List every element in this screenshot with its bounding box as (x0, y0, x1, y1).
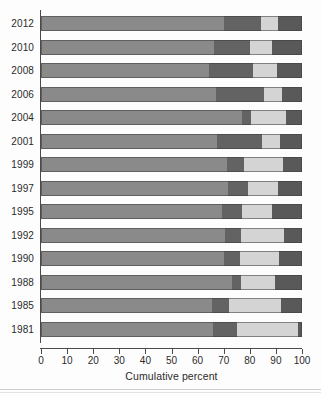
y-axis-tick-label: 1988 (11, 275, 34, 290)
x-axis-tick-mark (41, 349, 42, 354)
bar-segment-segment-4 (284, 228, 302, 243)
x-axis-ticks: 0102030405060708090100 (41, 349, 302, 371)
x-axis-tick-label: 100 (294, 355, 311, 366)
x-axis-tick-mark (276, 349, 277, 354)
bar-segment-segment-3 (229, 298, 281, 313)
x-axis-tick-label: 30 (114, 355, 125, 366)
bar-segment-segment-3 (261, 16, 278, 31)
x-axis-tick-label: 50 (166, 355, 177, 366)
y-axis-tick-label: 1985 (11, 298, 34, 313)
plot-area (41, 12, 302, 341)
bar-segment-segment-2 (227, 157, 244, 172)
bar-row (41, 322, 302, 337)
bar-segment-segment-1 (41, 40, 214, 55)
bar-segment-segment-1 (41, 134, 217, 149)
y-axis-tick-label: 2001 (11, 134, 34, 149)
x-axis-tick-label: 10 (62, 355, 73, 366)
bar-row (41, 157, 302, 172)
bar-row (41, 204, 302, 219)
bar-segment-segment-1 (41, 157, 227, 172)
y-axis-tick-label: 1981 (11, 322, 34, 337)
bar-track (41, 134, 302, 149)
bar-segment-segment-4 (280, 134, 302, 149)
x-axis-tick-mark (67, 349, 68, 354)
x-axis-tick-label: 0 (38, 355, 44, 366)
bar-row (41, 275, 302, 290)
bar-segment-segment-3 (250, 40, 272, 55)
x-axis-tick-mark (119, 349, 120, 354)
bar-segment-segment-1 (41, 63, 209, 78)
x-axis-tick-mark (145, 349, 146, 354)
bar-segment-segment-3 (248, 181, 277, 196)
x-axis-tick-mark (224, 349, 225, 354)
bar-track (41, 181, 302, 196)
bar-segment-segment-3 (264, 87, 283, 102)
bar-row (41, 87, 302, 102)
bar-segment-segment-3 (262, 134, 281, 149)
cumulative-percent-chart: 2012201020082006200420011999199719951992… (0, 0, 321, 397)
bar-segment-segment-3 (251, 110, 286, 125)
bar-segment-segment-1 (41, 251, 224, 266)
bar-track (41, 16, 302, 31)
x-axis-tick-label: 70 (218, 355, 229, 366)
bar-segment-segment-4 (277, 63, 302, 78)
page-rule-secondary (0, 392, 321, 393)
bar-segment-segment-3 (241, 275, 275, 290)
bar-track (41, 87, 302, 102)
bar-segment-segment-3 (241, 228, 285, 243)
x-axis-tick-label: 20 (88, 355, 99, 366)
bar-segment-segment-1 (41, 228, 225, 243)
bar-track (41, 275, 302, 290)
bar-segment-segment-2 (225, 228, 240, 243)
bar-segment-segment-1 (41, 275, 232, 290)
bar-segment-segment-2 (222, 204, 242, 219)
bar-row (41, 251, 302, 266)
bar-segment-segment-4 (278, 16, 302, 31)
bar-segment-segment-1 (41, 181, 228, 196)
x-axis-tick-mark (198, 349, 199, 354)
y-axis-tick-label: 1990 (11, 251, 34, 266)
bar-segment-segment-1 (41, 322, 213, 337)
bar-segment-segment-4 (272, 204, 302, 219)
bar-track (41, 63, 302, 78)
bar-segment-segment-4 (282, 87, 302, 102)
bar-row (41, 110, 302, 125)
bar-row (41, 63, 302, 78)
bar-segment-segment-4 (283, 157, 302, 172)
y-axis-tick-label: 1992 (11, 228, 34, 243)
bar-segment-segment-3 (242, 204, 272, 219)
x-axis-tick-label: 40 (140, 355, 151, 366)
bar-segment-segment-4 (286, 110, 302, 125)
bar-row (41, 134, 302, 149)
bar-segment-segment-2 (216, 87, 264, 102)
x-axis-tick-mark (93, 349, 94, 354)
y-axis-tick-label: 2010 (11, 40, 34, 55)
y-axis-tick-label: 1997 (11, 181, 34, 196)
y-axis-tick-label: 2006 (11, 87, 34, 102)
bar-segment-segment-3 (240, 251, 278, 266)
x-axis-tick-mark (172, 349, 173, 354)
bar-row (41, 16, 302, 31)
y-axis-tick-label: 2008 (11, 63, 34, 78)
bar-segment-segment-4 (275, 275, 302, 290)
bar-segment-segment-3 (237, 322, 298, 337)
bar-track (41, 322, 302, 337)
bar-rows (41, 12, 302, 341)
bar-segment-segment-1 (41, 298, 212, 313)
y-axis-tick-label: 1995 (11, 204, 34, 219)
x-axis-tick-mark (250, 349, 251, 354)
x-axis-tick-label: 80 (244, 355, 255, 366)
bar-row (41, 298, 302, 313)
bar-track (41, 157, 302, 172)
bar-track (41, 204, 302, 219)
bar-track (41, 298, 302, 313)
bar-segment-segment-2 (228, 181, 248, 196)
bar-row (41, 40, 302, 55)
y-axis-tick-label: 2012 (11, 16, 34, 31)
bar-segment-segment-2 (214, 40, 251, 55)
x-axis-tick-label: 60 (192, 355, 203, 366)
bar-row (41, 228, 302, 243)
bar-track (41, 110, 302, 125)
bar-track (41, 40, 302, 55)
bar-segment-segment-1 (41, 16, 224, 31)
